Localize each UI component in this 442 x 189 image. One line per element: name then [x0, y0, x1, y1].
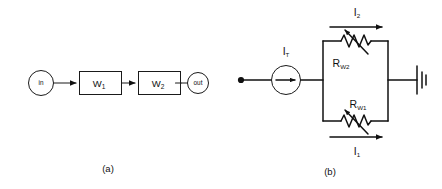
current-label-i1: I1 — [354, 145, 361, 158]
figure-container: in W1 W2 out (a) I2 — [0, 0, 442, 189]
current-label-i2: I2 — [354, 6, 361, 19]
panel-b: I2 IT RW2 RW1 — [238, 6, 426, 177]
caption-a: (a) — [102, 163, 114, 174]
figure-svg: in W1 W2 out (a) I2 — [0, 0, 442, 189]
resistor-rw1-label: RW1 — [350, 98, 367, 111]
input-node-label: in — [39, 79, 44, 86]
caption-b: (b) — [324, 166, 336, 177]
output-node-label: out — [194, 79, 203, 86]
resistor-rw1-variable-arrow — [345, 110, 368, 134]
panel-a: in W1 W2 out (a) — [29, 71, 209, 174]
resistor-rw2-label: RW2 — [333, 57, 350, 70]
resistor-rw2-variable-arrow — [345, 30, 368, 54]
current-source-label: IT — [283, 45, 290, 58]
